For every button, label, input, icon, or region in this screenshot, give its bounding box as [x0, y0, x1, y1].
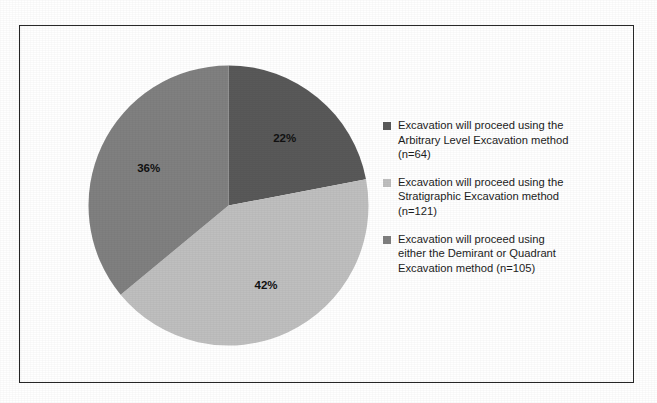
pie-slice-label: 22%: [273, 132, 296, 144]
pie-chart-plot-area: 22%42%36%: [88, 65, 369, 346]
legend-item[interactable]: Excavation will proceed using the Strati…: [383, 175, 598, 219]
pie-slice-label: 36%: [137, 162, 160, 174]
chart-legend: Excavation will proceed using the Arbitr…: [383, 118, 598, 288]
pie-chart-figure: 22%42%36% Excavation will proceed using …: [0, 0, 657, 403]
legend-item[interactable]: Excavation will proceed using either the…: [383, 232, 598, 276]
legend-item-label: Excavation will proceed using the Arbitr…: [398, 118, 568, 162]
pie-chart-svg: 22%42%36%: [88, 65, 369, 346]
legend-color-swatch: [383, 122, 391, 130]
legend-item[interactable]: Excavation will proceed using the Arbitr…: [383, 118, 598, 162]
pie-slice-group: [89, 65, 369, 345]
legend-color-swatch: [383, 236, 391, 244]
legend-item-label: Excavation will proceed using the Strati…: [398, 175, 563, 219]
pie-slice-label: 42%: [255, 279, 278, 291]
legend-color-swatch: [383, 179, 391, 187]
legend-item-label: Excavation will proceed using either the…: [398, 232, 556, 276]
